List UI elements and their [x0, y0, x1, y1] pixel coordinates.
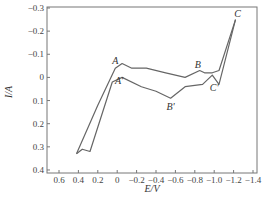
y-tick-label: −0.2 — [28, 26, 44, 36]
x-axis-label: E/V — [144, 183, 162, 194]
peak-label: B' — [166, 101, 175, 112]
y-axis-label: I/A — [3, 85, 14, 99]
y-tick-label: 0.2 — [33, 119, 44, 129]
x-tick-label: −1.0 — [206, 175, 223, 185]
annotations: AA'BB'CC' — [111, 8, 241, 112]
peak-label: C' — [210, 82, 220, 93]
x-tick-label: 0.2 — [92, 175, 103, 185]
y-tick-label: 0 — [40, 72, 45, 82]
x-tick-label: −0.6 — [167, 175, 184, 185]
x-tick-label: −1.2 — [225, 175, 241, 185]
x-tick-label: −0.8 — [187, 175, 204, 185]
peak-label: A — [111, 55, 119, 66]
x-tick-label: 0 — [115, 175, 120, 185]
peak-label: C — [234, 8, 241, 19]
x-tick-label: −0.2 — [128, 175, 144, 185]
y-tick-label: 0.4 — [33, 165, 45, 175]
peak-label: B — [195, 59, 201, 70]
peak-label: A' — [114, 75, 124, 86]
y-tick-label: −0.1 — [28, 49, 44, 59]
x-tick-label: 0.6 — [53, 175, 65, 185]
cyclic-voltammogram-chart: 0.60.40.20−0.2−0.4−0.6−0.8−1.0−1.2−1.4 −… — [0, 0, 268, 197]
y-tick-label: 0.1 — [33, 96, 44, 106]
x-tick-label: 0.4 — [73, 175, 85, 185]
y-tick-label: −0.3 — [28, 3, 45, 13]
x-tick-label: −1.4 — [245, 175, 262, 185]
y-tick-label: 0.3 — [33, 142, 45, 152]
